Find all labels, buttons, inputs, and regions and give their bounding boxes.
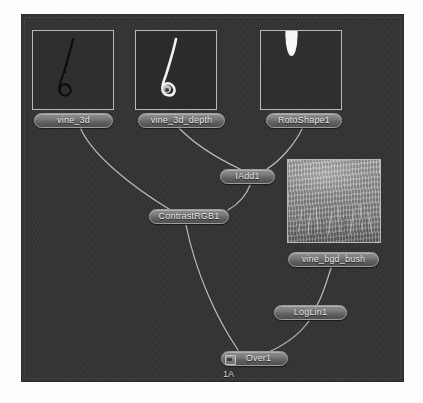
wire-vine3ddepth-iadd1 <box>178 127 240 169</box>
vine-dark-glyph <box>33 31 113 109</box>
thumb-rotoshape-image <box>261 31 341 109</box>
wire-loglin1-over1 <box>264 321 309 354</box>
node-label: LogLin1 <box>294 308 327 317</box>
thumb-vine-3d-depth-image <box>136 31 216 109</box>
thumb-rotoshape[interactable] <box>260 30 342 110</box>
viewer-badge-label: 1A <box>223 369 234 379</box>
node-label: vine_3d_depth <box>151 116 213 125</box>
wire-vine3d-contrastrgb1 <box>80 127 169 209</box>
node-vine_3d_depth[interactable]: vine_3d_depth <box>138 113 225 128</box>
thumb-vine-bgd-bush[interactable] <box>287 159 381 243</box>
app-window: vine_3d vine_3d_depth RotoShape1 IAdd1 C… <box>0 0 423 403</box>
viewer-indicator-icon[interactable] <box>225 355 236 365</box>
thumb-vine-bgd-bush-image <box>288 160 380 242</box>
thumb-vine-3d-image <box>33 31 113 109</box>
thumb-vine-3d[interactable] <box>32 30 114 110</box>
wire-contrastrgb1-over1 <box>186 225 238 350</box>
node-vine_3d[interactable]: vine_3d <box>34 113 113 128</box>
wire-vinebgdbush-loglin1 <box>317 268 331 305</box>
node-label: vine_bgd_bush <box>302 255 366 264</box>
node-graph-canvas[interactable]: vine_3d vine_3d_depth RotoShape1 IAdd1 C… <box>21 14 404 382</box>
node-LogLin1[interactable]: LogLin1 <box>274 305 347 320</box>
node-label: RotoShape1 <box>278 116 330 125</box>
roto-shape-glyph <box>261 31 341 109</box>
vine-bright-glyph <box>136 31 216 109</box>
node-label: vine_3d <box>57 116 90 125</box>
node-label: IAdd1 <box>235 172 260 181</box>
node-vine_bgd_bush[interactable]: vine_bgd_bush <box>288 252 379 267</box>
node-ContrastRGB1[interactable]: ContrastRGB1 <box>149 209 229 224</box>
node-RotoShape1[interactable]: RotoShape1 <box>266 113 342 128</box>
node-Over1[interactable]: Over1 <box>221 351 288 366</box>
wire-iadd1-contrastrgb1 <box>228 185 250 210</box>
node-label: ContrastRGB1 <box>159 212 220 221</box>
bush-texture-glyph <box>288 160 380 242</box>
thumb-vine-3d-depth[interactable] <box>135 30 217 110</box>
node-label: Over1 <box>246 354 272 363</box>
node-IAdd1[interactable]: IAdd1 <box>220 169 275 184</box>
